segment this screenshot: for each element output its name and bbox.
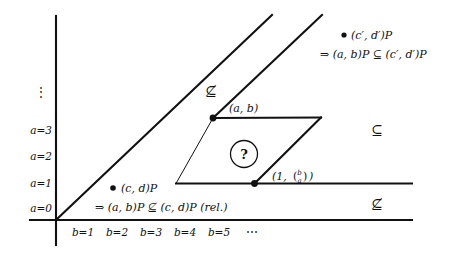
point-ab-dot — [210, 115, 217, 122]
label-vector-group: (1, ( b a ) ) — [272, 169, 313, 185]
point-cd-dot — [110, 185, 116, 191]
y-axis-label-a3: a=3 — [30, 124, 52, 136]
annotation-top-right-group: (c′, d′)P ⇒ (a, b)P ⊆ (c′, d′)P — [320, 29, 427, 61]
y-axis-label-a2: a=2 — [30, 150, 52, 162]
vector-label-prefix: (1, — [272, 170, 287, 183]
x-axis-labels-group: b=1 b=2 b=3 b=4 b=5 ⋯ — [72, 225, 260, 239]
x-axis-label-b1: b=1 — [72, 226, 94, 238]
figure-root: ? ⋮ a=3 a=2 a=1 a=0 b=1 b=2 b=3 b=4 b=5 … — [0, 0, 454, 259]
data-points-group — [210, 115, 258, 187]
x-axis-label-b4: b=4 — [174, 226, 196, 238]
diagram-canvas: ? ⋮ a=3 a=2 a=1 a=0 b=1 b=2 b=3 b=4 b=5 … — [0, 0, 454, 259]
region-lower-right-symbol: ⊈ — [371, 196, 383, 212]
x-axis-label-b2: b=2 — [106, 226, 129, 238]
parallelogram-top-edge — [213, 118, 321, 119]
annotation-bottom-left-group: (c, d)P ⇒ (a, b)P ⊈ (c, d)P (rel.) — [95, 182, 228, 214]
vector-paren-close: ) — [303, 170, 307, 183]
question-mark-label: ? — [240, 147, 248, 162]
x-axis-ellipsis: ⋯ — [246, 225, 260, 239]
vector-bottom-component: a — [297, 177, 301, 185]
y-axis-label-a1: a=1 — [30, 177, 52, 189]
question-badge-group[interactable]: ? — [231, 141, 258, 168]
parallelogram-left-edge — [176, 118, 213, 184]
vector-top-component: b — [297, 169, 302, 177]
region-right-subset-symbol: ⊆ — [371, 122, 383, 138]
y-axis-label-a0: a=0 — [30, 202, 52, 214]
y-axis-ellipsis: ⋮ — [35, 85, 47, 99]
vector-label-suffix: ) — [308, 170, 313, 183]
x-axis-label-b3: b=3 — [140, 226, 163, 238]
region-upper-diagonal-symbol: ⊈ — [205, 83, 217, 99]
y-axis-labels-group: ⋮ a=3 a=2 a=1 a=0 — [30, 85, 52, 214]
x-axis-label-b5: b=5 — [208, 226, 231, 238]
annotation-top-right-line2: ⇒ (a, b)P ⊆ (c′, d′)P — [320, 48, 427, 61]
annotation-top-right-line1: (c′, d′)P — [351, 29, 393, 42]
annotation-bottom-left-line1: (c, d)P — [121, 182, 158, 195]
annotation-bottom-left-line2: ⇒ (a, b)P ⊈ (c, d)P (rel.) — [95, 201, 228, 214]
point-cpdp-dot — [341, 32, 346, 37]
point-ab-label: (a, b) — [229, 102, 258, 115]
point-vector-dot — [251, 180, 258, 187]
label-ab-group: (a, b) — [229, 102, 258, 115]
